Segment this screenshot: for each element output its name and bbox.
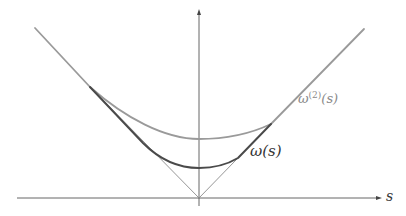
omega-2-superscript: (2) xyxy=(309,90,322,100)
omega-symbol: ω xyxy=(250,142,262,160)
omega-2-argument: (s) xyxy=(321,91,338,106)
x-axis-arrow-icon xyxy=(376,196,382,200)
y-axis-arrow-icon xyxy=(197,9,201,15)
x-axis-label: s xyxy=(386,189,393,203)
abs-v-lines xyxy=(90,87,271,198)
omega-2-label: ω(2)(s) xyxy=(298,91,338,105)
omega-label: ω(s) xyxy=(250,144,282,159)
omega-2-curve xyxy=(35,28,364,139)
omega-curve xyxy=(90,87,271,168)
omega-argument: (s) xyxy=(262,142,281,160)
omega-2-symbol: ω xyxy=(298,91,309,106)
diagram-figure xyxy=(0,0,406,216)
